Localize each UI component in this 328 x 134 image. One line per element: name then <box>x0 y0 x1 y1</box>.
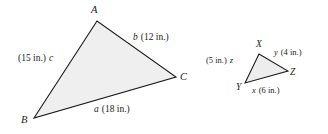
vertex-label-b: B <box>21 115 27 126</box>
side-z-measure: (5 in.) <box>206 55 227 65</box>
vertex-label-a: A <box>91 5 97 16</box>
vertex-label-y: Y <box>236 83 241 93</box>
side-label-a: a(18 in.) <box>94 105 130 115</box>
vertex-label-c: C <box>180 72 187 83</box>
side-x-measure: (6 in.) <box>256 85 280 95</box>
vertex-label-z: Z <box>290 68 295 78</box>
side-label-c: (15 in.)c <box>18 54 53 64</box>
side-c-symbol: c <box>46 53 53 63</box>
side-b-measure: (12 in.) <box>138 32 169 42</box>
side-c-measure: (15 in.) <box>18 53 46 63</box>
figure-canvas <box>0 0 328 134</box>
triangle-xyz-shape <box>245 54 288 83</box>
vertex-label-x: X <box>256 40 262 50</box>
side-label-x: x(6 in.) <box>252 86 280 95</box>
side-label-z: (5 in.)z <box>206 56 233 65</box>
side-label-b: b(12 in.) <box>133 33 169 43</box>
side-z-symbol: z <box>227 55 233 65</box>
side-y-measure: (4 in.) <box>278 47 302 57</box>
side-a-measure: (18 in.) <box>99 104 130 114</box>
similar-triangles-figure: A B C (15 in.)c b(12 in.) a(18 in.) X Y … <box>0 0 328 134</box>
side-label-y: y(4 in.) <box>274 48 302 57</box>
